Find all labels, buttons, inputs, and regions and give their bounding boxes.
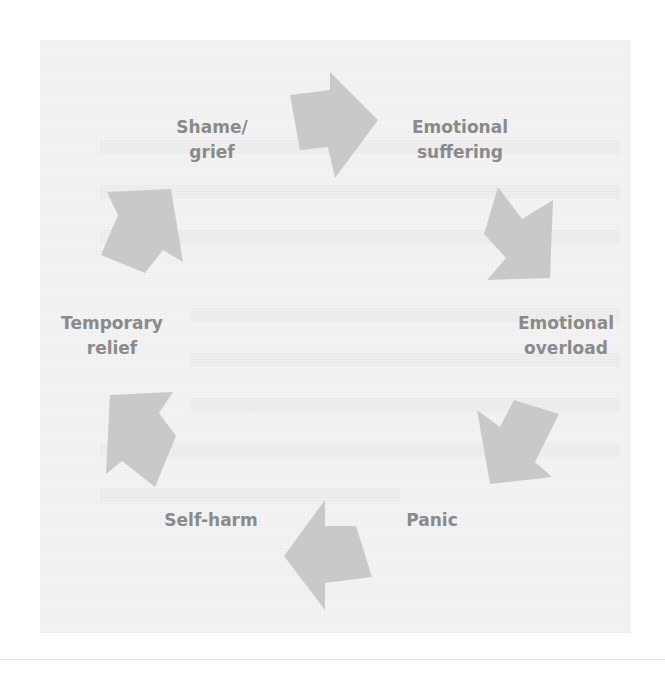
node-label-line: suffering xyxy=(412,140,508,165)
arrow-left-icon xyxy=(284,500,372,610)
node-self-harm: Self-harm xyxy=(164,508,257,533)
node-temporary-relief: Temporary relief xyxy=(61,311,163,361)
arrow-down-right-icon xyxy=(484,187,553,280)
node-label-line: Shame/ xyxy=(176,115,247,140)
node-shame-grief: Shame/ grief xyxy=(176,115,247,165)
node-panic: Panic xyxy=(406,508,457,533)
node-emotional-suffering: Emotional suffering xyxy=(412,115,508,165)
arrow-down-left-icon xyxy=(477,400,559,484)
node-label-line: Panic xyxy=(406,508,457,533)
arrow-up-left-icon xyxy=(106,392,176,487)
node-label-line: Emotional xyxy=(412,115,508,140)
node-label-line: overload xyxy=(518,336,614,361)
node-label-line: Self-harm xyxy=(164,508,257,533)
arrow-right-icon xyxy=(290,72,378,178)
node-label-line: relief xyxy=(61,336,163,361)
node-emotional-overload: Emotional overload xyxy=(518,311,614,361)
node-label-line: Emotional xyxy=(518,311,614,336)
bottom-divider xyxy=(0,659,665,660)
node-label-line: grief xyxy=(176,140,247,165)
node-label-line: Temporary xyxy=(61,311,163,336)
cycle-diagram: Shame/ grief Emotional suffering Emotion… xyxy=(0,0,665,678)
arrow-up-right-icon xyxy=(101,189,183,273)
